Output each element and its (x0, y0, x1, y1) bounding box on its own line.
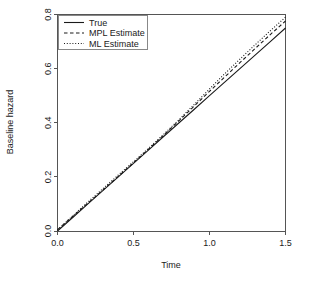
x-tick-label: 0.0 (51, 238, 64, 248)
chart-figure: 0.00.20.40.60.8 0.00.51.01.5 Time Baseli… (0, 0, 310, 282)
y-tick-label: 0.8 (43, 8, 53, 21)
legend-label-true: True (89, 18, 107, 28)
y-tick-label: 0.4 (43, 116, 53, 129)
y-tick-label: 0.0 (43, 225, 53, 238)
x-tick-label: 1.0 (203, 238, 216, 248)
y-tick-label: 0.2 (43, 171, 53, 184)
legend-label-mpl-estimate: MPL Estimate (89, 28, 145, 38)
legend-label-ml-estimate: ML Estimate (89, 39, 139, 49)
y-tick-label: 0.6 (43, 62, 53, 75)
x-tick-label: 1.5 (279, 238, 292, 248)
plot-background (0, 0, 310, 282)
x-tick-label: 0.5 (127, 238, 140, 248)
y-axis-title: Baseline hazard (5, 90, 15, 155)
legend: True MPL Estimate ML Estimate (59, 16, 148, 50)
x-axis-title: Time (161, 260, 181, 270)
baseline-hazard-plot: 0.00.20.40.60.8 0.00.51.01.5 Time Baseli… (0, 0, 310, 282)
